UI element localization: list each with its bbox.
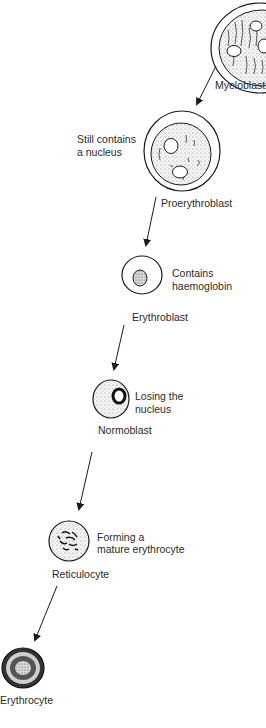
label-erythrocyte: Erythrocyte: [0, 694, 53, 707]
note-erythroblast-line2: haemoglobin: [172, 280, 232, 293]
note-proerythroblast-line2: a nucleus: [77, 146, 122, 159]
label-erythroblast: Erythroblast: [132, 311, 188, 324]
proerythroblast-cell: [144, 111, 220, 191]
note-normoblast-line1: Losing the: [135, 390, 183, 403]
erythrocyte-cell: [2, 648, 44, 688]
note-proerythroblast-line1: Still contains: [77, 133, 136, 146]
normoblast-cell: [93, 380, 129, 418]
arrow-erythroblast-to-normoblast: [114, 325, 124, 369]
note-erythroblast-line1: Contains: [172, 267, 213, 280]
arrow-proerythroblast-to-erythroblast: [146, 197, 156, 245]
label-normoblast: Normoblast: [98, 424, 152, 437]
label-reticulocyte: Reticulocyte: [52, 568, 109, 581]
reticulocyte-cell: [49, 521, 89, 561]
arrow-myeloblast-to-proerythroblast: [197, 66, 216, 104]
note-normoblast-line2: nucleus: [135, 403, 171, 416]
arrow-reticulocyte-to-erythrocyte: [35, 586, 57, 640]
diagram-canvas: [0, 0, 266, 728]
label-proerythroblast: Proerythroblast: [161, 197, 232, 210]
label-myeloblast: Myeloblast: [215, 79, 265, 92]
arrow-normoblast-to-reticulocyte: [79, 452, 92, 509]
note-reticulocyte-line2: mature erythrocyte: [97, 543, 185, 556]
erythroblast-cell: [122, 256, 162, 294]
